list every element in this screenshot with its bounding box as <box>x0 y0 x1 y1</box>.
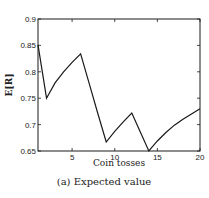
y-tick-label: 0.85 <box>20 41 36 50</box>
line-chart: 0.650.70.750.80.850.9 5101520 Coin tosse… <box>0 0 209 198</box>
y-tick-label: 0.9 <box>25 15 37 24</box>
y-tick-label: 0.8 <box>25 68 37 77</box>
figure-caption: (a) Expected value <box>57 176 152 187</box>
x-tick-label: 20 <box>196 153 205 162</box>
x-tick-label: 5 <box>70 153 75 162</box>
y-axis-label: E[R] <box>4 74 14 97</box>
x-axis-label: Coin tosses <box>93 158 145 168</box>
series-line <box>38 45 200 151</box>
y-axis-ticks: 0.650.70.750.80.850.9 <box>20 15 200 156</box>
y-tick-label: 0.65 <box>20 147 36 156</box>
y-axis-label-text: E[R] <box>4 74 14 97</box>
x-axis-ticks: 5101520 <box>70 19 205 162</box>
y-tick-label: 0.75 <box>20 94 36 103</box>
plot-frame <box>38 19 200 151</box>
y-tick-label: 0.7 <box>25 121 37 130</box>
x-tick-label: 15 <box>153 153 162 162</box>
